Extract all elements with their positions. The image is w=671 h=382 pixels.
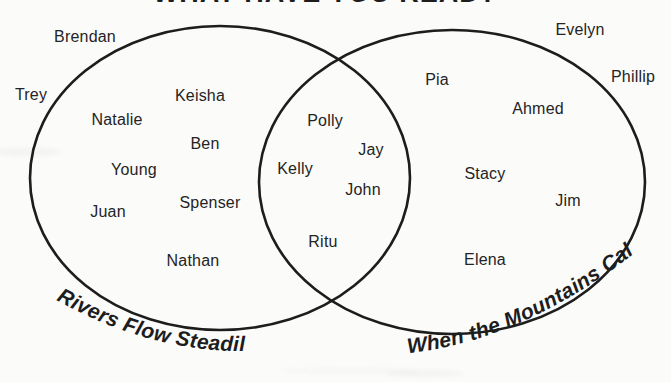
member-name-ben: Ben <box>190 135 219 153</box>
member-name-john: John <box>345 181 381 199</box>
member-name-kelly: Kelly <box>277 160 313 178</box>
member-name-jay: Jay <box>358 141 384 159</box>
member-name-keisha: Keisha <box>175 87 225 105</box>
member-name-spenser: Spenser <box>180 194 241 212</box>
member-name-ahmed: Ahmed <box>512 100 564 118</box>
member-name-evelyn: Evelyn <box>555 21 604 39</box>
left-circle-outline <box>30 26 410 330</box>
member-name-jim: Jim <box>555 192 580 210</box>
venn-diagram-svg: Rivers Flow Steadily When the Mountains … <box>0 0 671 382</box>
member-name-brendan: Brendan <box>54 28 116 46</box>
member-name-ritu: Ritu <box>308 233 337 251</box>
member-name-young: Young <box>111 161 157 179</box>
member-name-nathan: Nathan <box>167 252 220 270</box>
member-name-natalie: Natalie <box>91 111 142 129</box>
member-name-pia: Pia <box>425 71 449 89</box>
member-name-elena: Elena <box>464 251 506 269</box>
member-name-juan: Juan <box>90 203 126 221</box>
venn-diagram-page: WHAT HAVE YOU READ? Rivers Flow Steadily… <box>0 0 671 382</box>
member-name-polly: Polly <box>307 112 343 130</box>
member-name-phillip: Phillip <box>611 68 655 86</box>
member-name-stacy: Stacy <box>464 165 505 183</box>
member-name-trey: Trey <box>15 86 47 104</box>
